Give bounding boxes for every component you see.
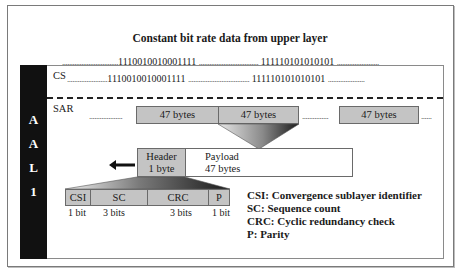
header-to-fields-funnel [65, 177, 230, 189]
left-arrow-icon [109, 160, 135, 170]
payload-label: Payload [205, 151, 352, 163]
header-size: 1 byte [138, 163, 185, 175]
pdu-header: Header 1 byte [137, 148, 186, 177]
sc-bits: 3 bits [96, 207, 132, 218]
field-sc: SC [90, 189, 148, 206]
legend-item: CRC: Cyclic redundancy check [247, 215, 422, 228]
field-p: P [208, 189, 230, 206]
legend-item: SC: Sequence count [247, 202, 422, 215]
legend-item: CSI: Convergence sublayer identifier [247, 189, 422, 202]
payload-size: 47 bytes [205, 163, 352, 175]
pdu-payload: Payload 47 bytes [185, 148, 353, 177]
p-bits: 1 bit [206, 207, 236, 218]
crc-bits: 3 bits [159, 207, 203, 218]
csi-bits: 1 bit [62, 207, 92, 218]
legend-item: P: Parity [247, 228, 422, 241]
field-csi: CSI [65, 189, 91, 206]
legend: CSI: Convergence sublayer identifier SC:… [247, 189, 422, 241]
field-crc: CRC [147, 189, 209, 206]
header-label: Header [138, 151, 185, 163]
sar-to-pdu-funnel [218, 124, 299, 149]
